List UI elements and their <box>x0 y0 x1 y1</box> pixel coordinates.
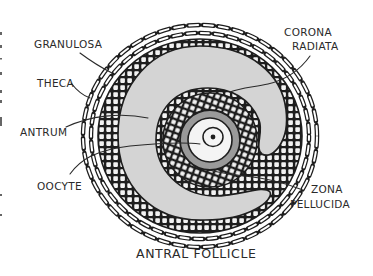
diagram-title: ANTRAL FOLLICLE <box>136 246 256 261</box>
oocyte-nucleolus <box>211 135 216 140</box>
label-granulosa: GRANULOSA <box>34 38 103 50</box>
oocyte <box>188 118 232 162</box>
antral-follicle-diagram: GRANULOSA THECA ANTRUM OOCYTE CORONA RAD… <box>0 0 373 276</box>
label-zona-pellucida-line2: PELLUCIDA <box>290 198 351 210</box>
label-antrum: ANTRUM <box>20 126 67 138</box>
label-oocyte: OOCYTE <box>37 180 82 192</box>
leader-granulosa <box>80 53 112 73</box>
label-corona-radiata-line2: RADIATA <box>292 40 339 52</box>
label-theca: THECA <box>36 77 74 89</box>
label-corona-radiata-line1: CORONA <box>284 26 333 38</box>
label-zona-pellucida-line1: ZONA <box>311 183 343 195</box>
left-edge-fragments <box>0 32 2 216</box>
